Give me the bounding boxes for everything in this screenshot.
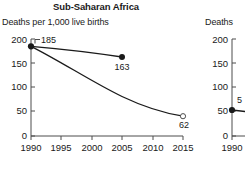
panel-sub-saharan-africa: 200 150 100 50 0 [11,34,193,153]
datapoint-marker-1990 [28,43,34,49]
datapoint-label-163: 163 [114,62,129,72]
x-tickmarks [31,136,183,140]
x-ticklabel-2010: 2010 [142,142,163,153]
figure-root: Sub-Saharan Africa Deaths per 1,000 live… [0,0,245,178]
x-ticklabel-2015: 2015 [172,142,193,153]
datapoint-marker-2005 [119,54,125,60]
datapoint-marker-2015 [180,114,185,119]
datapoint-label-62: 62 [179,120,189,130]
chart-canvas: 200 150 100 50 0 [0,0,245,178]
datapoint-label-185: 185 [41,35,56,45]
panel-next-region-clipped: 200 150 100 50 0 1990 5 [212,34,245,153]
x-ticklabel-1990: 1990 [20,142,41,153]
y-ticklabel-right-50: 50 [217,105,228,116]
x-ticklabel-2000: 2000 [81,142,102,153]
y-axis-ticklabels-right: 200 150 100 50 0 [212,34,228,141]
datapoint-marker-right-1990 [229,107,235,113]
datapoint-label-right-truncated: 5 [237,95,242,105]
series-line-observed-to-2005 [31,46,122,57]
x-axis-ticklabels: 1990 1995 2000 2005 2010 2015 [20,142,193,153]
y-ticklabel-100: 100 [11,81,27,92]
y-ticklabel-200: 200 [11,34,27,45]
y-ticklabel-right-150: 150 [212,58,228,69]
y-ticklabel-right-100: 100 [212,81,228,92]
y-ticklabel-0: 0 [22,130,27,141]
y-axis-ticklabels: 200 150 100 50 0 [11,34,27,141]
y-tickmarks [31,39,35,136]
x-ticklabel-right-1990: 1990 [221,142,242,153]
y-ticklabel-right-0: 0 [223,130,228,141]
y-ticklabel-right-200: 200 [212,34,228,45]
y-ticklabel-150: 150 [11,58,27,69]
y-ticklabel-50: 50 [16,105,27,116]
axis-spines [31,39,183,136]
series-line-trend-to-2015 [31,46,183,116]
x-ticklabel-2005: 2005 [111,142,132,153]
x-ticklabel-1995: 1995 [50,142,71,153]
y-tickmarks-right [232,39,236,136]
